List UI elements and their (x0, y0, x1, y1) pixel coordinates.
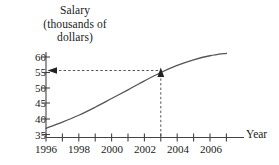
readoff-horizontal-annotation (48, 67, 159, 74)
readoff-vertical-arrowhead-icon (157, 68, 164, 78)
plot-area (0, 0, 279, 165)
readoff-vertical-annotation (157, 68, 164, 137)
salary-curve (46, 53, 226, 128)
salary-vs-year-chart: Salary (thousands of dollars) 60 55 50 4… (0, 0, 279, 165)
